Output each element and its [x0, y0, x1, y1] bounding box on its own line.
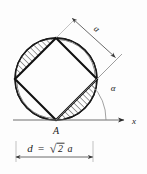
dimension-d-a: a	[68, 143, 73, 154]
point-a-label: A	[52, 125, 60, 136]
dimension-d-two: 2	[58, 143, 63, 154]
dimension-a-line	[73, 19, 116, 58]
geometry-figure: x A α a d = √ 2 a	[0, 0, 147, 174]
dimension-d-expression: d = √ 2 a	[27, 142, 72, 156]
angle-alpha-label: α	[111, 83, 116, 93]
dimension-d-symbol: d	[27, 142, 33, 154]
dimension-a-label: a	[92, 24, 102, 35]
diagram-canvas: x A α a d = √ 2 a	[0, 0, 147, 174]
dimension-a-extension-top	[56, 20, 75, 39]
x-axis-label: x	[131, 116, 136, 126]
dimension-d-radical: √	[50, 142, 57, 156]
dimension-a-extension-bottom	[97, 60, 116, 79]
dimension-d-equals: =	[37, 142, 44, 154]
